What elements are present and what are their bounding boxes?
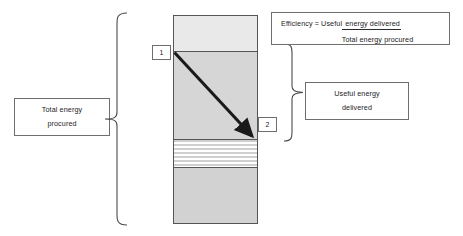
useful-energy-label-box: Useful energy delivered xyxy=(305,82,409,120)
diagram-canvas: Total energy procured 1 2 Useful energy … xyxy=(0,0,463,236)
total-energy-label-box: Total energy procured xyxy=(14,98,110,136)
band-striped xyxy=(174,140,257,168)
marker-1-label: 1 xyxy=(160,49,164,56)
useful-energy-brace xyxy=(283,43,305,142)
marker-2-label: 2 xyxy=(266,121,270,128)
total-energy-line-1: Total energy xyxy=(42,103,82,117)
total-energy-line-2: procured xyxy=(47,117,76,131)
formula-denominator: Total energy procured xyxy=(272,33,449,47)
band-bottom xyxy=(174,168,257,223)
band-top xyxy=(174,16,257,52)
marker-1[interactable]: 1 xyxy=(152,45,171,60)
total-energy-brace xyxy=(103,12,129,226)
efficiency-formula-box: Efficiency = Useful energy delivered Tot… xyxy=(271,12,450,45)
marker-2[interactable]: 2 xyxy=(258,117,277,132)
useful-energy-line-1: Useful energy xyxy=(334,87,380,101)
energy-loss-arrow xyxy=(173,51,259,141)
formula-prefix: Efficiency = Useful xyxy=(281,19,342,28)
formula-numerator: energy delivered xyxy=(342,19,401,30)
useful-energy-line-2: delivered xyxy=(342,101,372,115)
formula-numerator-line: Efficiency = Useful energy delivered xyxy=(272,17,449,31)
